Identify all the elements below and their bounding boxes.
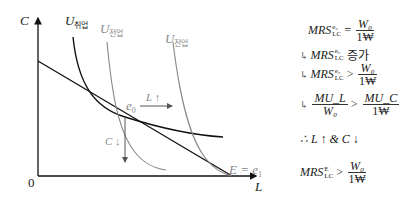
note-line-1: MRS e₀LC = W₀1₩ [308, 18, 374, 43]
budget-line [38, 61, 232, 176]
notes-panel: MRS e₀LC = W₀1₩ ↳ MRS e₀LC 증가 ↳ MRS e₀LC… [300, 0, 405, 200]
note-line-3: ↳ MRS e₀LC > W₀1₩ [300, 62, 377, 87]
arrow-C-label: C ↓ [105, 136, 121, 147]
curve-label-homemaker-1: U전업 [100, 22, 123, 38]
x-axis-label: L [255, 180, 262, 193]
curve-label-employed: U취업 [65, 14, 88, 30]
note-line-5: ∴ L ↑ & C ↓ [300, 132, 359, 147]
y-axis-label: C [20, 14, 29, 27]
indifference-curve-homemaker-2 [173, 42, 232, 176]
curve-label-homemaker-2: U전업 [165, 32, 188, 48]
note-line-6: MRS ELC > W₀1₩ [300, 160, 366, 185]
arrow-L-label: L ↑ [146, 92, 160, 103]
origin-label: 0 [28, 176, 35, 189]
point-E-label: E = e1 [229, 163, 262, 179]
point-e0-label: e0 [126, 99, 136, 115]
indifference-curve-employed [73, 37, 223, 137]
note-line-4: ↳ MU_LW₀ > MU_C1₩ [300, 92, 399, 117]
